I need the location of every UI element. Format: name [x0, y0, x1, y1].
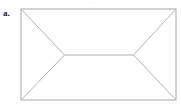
geometric-figure-diagram — [0, 0, 181, 105]
figure-panel: ·· a. — [0, 0, 181, 105]
